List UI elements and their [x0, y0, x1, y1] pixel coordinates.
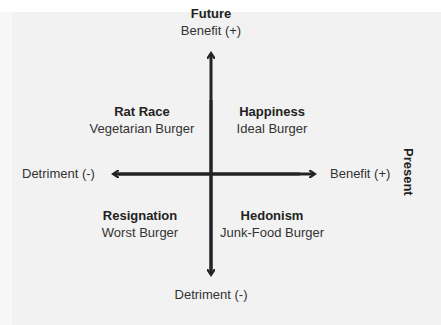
future-benefit-label: Benefit (+)	[171, 23, 251, 39]
future-detriment-label: Detriment (-)	[161, 287, 261, 303]
quadrant-bottom-left: Resignation Worst Burger	[80, 208, 200, 241]
quadrant-subtitle: Worst Burger	[80, 225, 200, 241]
quadrant-subtitle: Vegetarian Burger	[82, 121, 202, 137]
quadrant-top-right: Happiness Ideal Burger	[212, 104, 332, 137]
present-axis-title: Present	[401, 148, 416, 196]
axes	[0, 0, 441, 325]
present-detriment-label: Detriment (-)	[22, 166, 112, 182]
present-benefit-label: Benefit (+)	[330, 166, 400, 182]
quadrant-title: Hedonism	[212, 208, 332, 224]
future-axis-title: Future	[181, 6, 241, 22]
quadrant-title: Happiness	[212, 104, 332, 120]
quadrant-subtitle: Ideal Burger	[212, 121, 332, 137]
quadrant-bottom-right: Hedonism Junk-Food Burger	[212, 208, 332, 241]
quadrant-subtitle: Junk-Food Burger	[212, 225, 332, 241]
quadrant-top-left: Rat Race Vegetarian Burger	[82, 104, 202, 137]
quadrant-title: Rat Race	[82, 104, 202, 120]
quadrant-title: Resignation	[80, 208, 200, 224]
